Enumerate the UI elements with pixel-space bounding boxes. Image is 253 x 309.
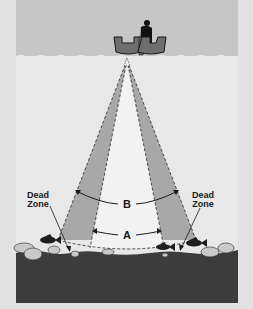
rock-icon bbox=[102, 249, 114, 255]
rock-icon bbox=[71, 251, 79, 257]
angler-head bbox=[144, 20, 150, 26]
rock-icon bbox=[218, 243, 234, 253]
label-b: B bbox=[123, 198, 131, 210]
rock-icon bbox=[162, 253, 168, 257]
sonar-diagram: B A Dead Zone Dead Zone bbox=[0, 0, 253, 309]
rock-icon bbox=[48, 246, 60, 254]
lake-bottom bbox=[16, 250, 238, 303]
dead-zone-left-label-line2: Zone bbox=[27, 199, 49, 209]
label-a: A bbox=[123, 229, 131, 241]
rock-icon bbox=[201, 247, 219, 257]
rock-icon bbox=[24, 248, 42, 260]
dead-zone-right-label-line2: Zone bbox=[192, 199, 214, 209]
